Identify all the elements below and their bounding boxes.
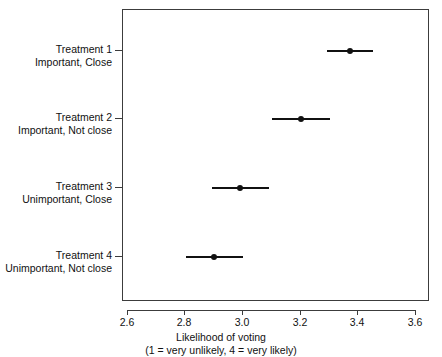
x-tick-2-8 [184,310,185,315]
category-label-line2: Unimportant, Not close [0,262,112,275]
category-label-line2: Unimportant, Close [0,193,112,206]
y-tick-treatment-3 [115,187,122,188]
x-tick-label-1: 2.8 [164,316,204,328]
x-axis-title-main: Likelihood of voting [176,331,266,343]
category-label-line1: Treatment 2 [0,111,112,124]
data-point-treatment-3 [237,185,243,191]
category-label-treatment-3: Treatment 3 Unimportant, Close [0,180,112,205]
x-tick-2-6 [127,310,128,315]
category-label-line2: Important, Not close [0,124,112,137]
y-tick-treatment-1 [115,50,122,51]
data-point-treatment-4 [211,254,217,260]
y-tick-treatment-2 [115,118,122,119]
category-label-treatment-1: Treatment 1 Important, Close [0,43,112,68]
category-label-line1: Treatment 4 [0,249,112,262]
x-tick-label-3: 3.2 [280,316,320,328]
x-axis-title-sub: (1 = very unlikely, 4 = very likely) [0,344,442,357]
x-axis-line [127,310,415,311]
data-point-treatment-1 [347,48,353,54]
y-tick-treatment-4 [115,256,122,257]
category-label-line1: Treatment 1 [0,43,112,56]
x-tick-label-2: 3.0 [222,316,262,328]
category-label-treatment-4: Treatment 4 Unimportant, Not close [0,249,112,274]
x-tick-3-0 [242,310,243,315]
plot-frame [122,9,429,301]
x-tick-3-4 [357,310,358,315]
category-label-line1: Treatment 3 [0,180,112,193]
category-label-treatment-2: Treatment 2 Important, Not close [0,111,112,136]
plot-area [123,10,428,300]
x-tick-label-5: 3.6 [395,316,435,328]
figure-container: Treatment 1 Important, Close Treatment 2… [0,0,442,357]
x-tick-3-2 [300,310,301,315]
x-tick-label-0: 2.6 [107,316,147,328]
data-point-treatment-2 [298,116,304,122]
x-tick-label-4: 3.4 [337,316,377,328]
category-label-line2: Important, Close [0,56,112,69]
x-tick-3-6 [415,310,416,315]
x-axis-title: Likelihood of voting (1 = very unlikely,… [0,331,442,357]
